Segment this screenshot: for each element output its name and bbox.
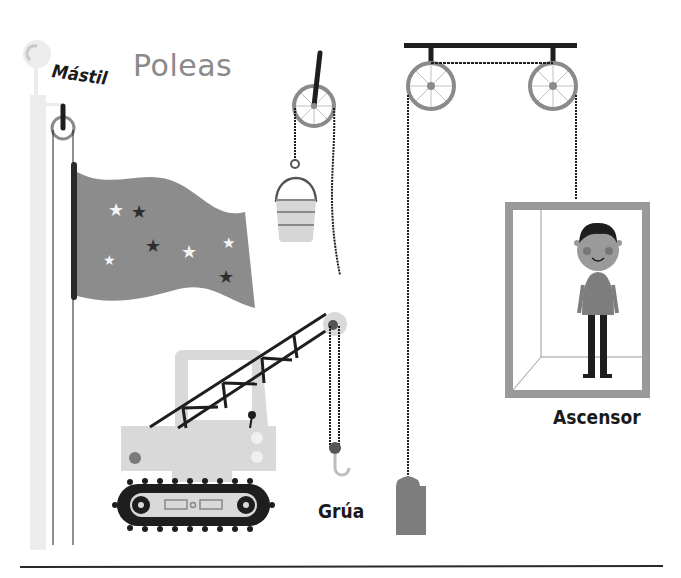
- star-icon: ★: [181, 242, 197, 262]
- bucket-pulley: [276, 53, 340, 275]
- star-icon: ★: [218, 267, 234, 287]
- flag: ★ ★ ★ ★ ★ ★ ★: [71, 162, 255, 308]
- bottom-rule: [20, 566, 663, 567]
- star-icon: ★: [131, 202, 147, 222]
- star-icon: ★: [222, 234, 235, 251]
- star-icon: ★: [145, 236, 161, 256]
- star-icon: ★: [108, 200, 124, 220]
- pulleys-illustration: ★ ★ ★ ★ ★ ★ ★: [0, 0, 681, 578]
- flagpole: [23, 40, 74, 550]
- crane: [112, 312, 349, 532]
- star-icon: ★: [103, 252, 116, 268]
- elevator-system: [396, 43, 646, 535]
